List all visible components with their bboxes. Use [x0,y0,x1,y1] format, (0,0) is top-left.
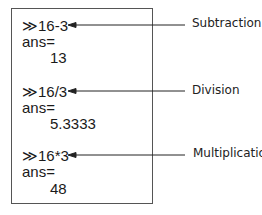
annotation-subtraction: Subtraction [192,16,261,30]
annotation-multiplication: Multiplication [193,146,262,160]
arrows [0,0,262,215]
annotation-division: Division [192,83,240,97]
